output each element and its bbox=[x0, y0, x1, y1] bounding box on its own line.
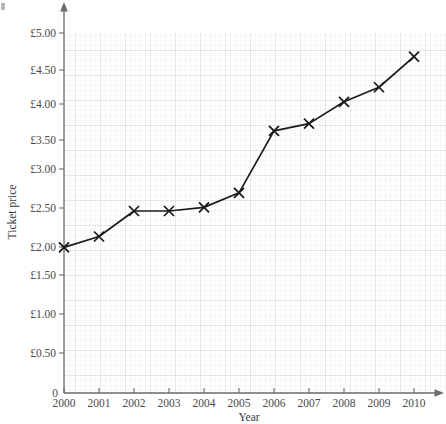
y-tick-label-1-50: £1.50 bbox=[30, 269, 56, 281]
y-tick-label-5-00: £5.00 bbox=[30, 27, 56, 39]
y-tick-label-3-00: £3.00 bbox=[30, 163, 56, 175]
x-tick-label-2002: 2002 bbox=[123, 397, 146, 409]
y-axis-arrowhead bbox=[60, 2, 68, 12]
y-tick-label-4-50: £4.50 bbox=[30, 64, 56, 76]
y-tick-label-2-00: £2.00 bbox=[30, 241, 56, 253]
y-tick-label-0-50: £0.50 bbox=[30, 347, 56, 359]
y-tick-label-3-50: £3.50 bbox=[30, 134, 56, 146]
y-axis-title: Ticket price bbox=[6, 185, 19, 240]
y-tick-label-2-50: £2.50 bbox=[30, 202, 56, 214]
x-tick-label-2010: 2010 bbox=[403, 397, 426, 409]
plot-grid-background bbox=[64, 33, 446, 393]
x-tick-label-2003: 2003 bbox=[158, 397, 181, 409]
x-tick-label-2001: 2001 bbox=[88, 397, 111, 409]
corner-mark bbox=[1, 3, 5, 10]
line-chart: £5.00 £4.50 £4.00 £3.50 £3.00 £2.50 £2.0… bbox=[0, 0, 446, 424]
x-tick-label-2008: 2008 bbox=[333, 397, 356, 409]
y-tick-label-4-00: £4.00 bbox=[30, 98, 56, 110]
x-axis-title: Year bbox=[238, 411, 259, 423]
x-tick-label-2007: 2007 bbox=[298, 397, 321, 409]
x-tick-label-2000: 2000 bbox=[53, 397, 76, 409]
x-tick-label-2006: 2006 bbox=[263, 397, 286, 409]
x-tick-label-2004: 2004 bbox=[193, 397, 216, 409]
x-tick-label-2009: 2009 bbox=[368, 397, 391, 409]
y-axis-ticks bbox=[59, 33, 64, 353]
chart-canvas: £5.00 £4.50 £4.00 £3.50 £3.00 £2.50 £2.0… bbox=[0, 0, 446, 424]
x-tick-label-2005: 2005 bbox=[228, 397, 251, 409]
y-tick-label-1-00: £1.00 bbox=[30, 308, 56, 320]
